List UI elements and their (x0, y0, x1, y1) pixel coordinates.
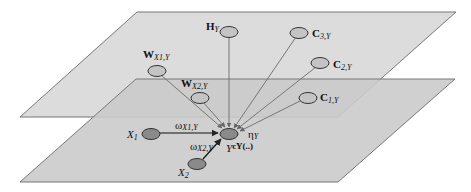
node-c1-y (299, 93, 317, 104)
node-w-x1-y (148, 66, 166, 77)
node-h-y (220, 27, 238, 38)
model-diagram: HY C3,Y C2,Y C1,Y WX1,Y WX2,Y X1 X2 YcY(… (0, 0, 471, 192)
node-y (220, 129, 238, 140)
node-c3-y (290, 28, 308, 39)
node-x2 (188, 159, 206, 170)
node-c2-y (311, 58, 329, 69)
node-w-x2-y (191, 93, 209, 104)
node-x1 (142, 129, 160, 140)
